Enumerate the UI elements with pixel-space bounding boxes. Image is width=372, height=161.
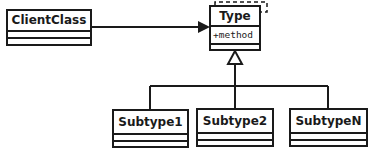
class-subtypen[interactable]: SubtypeN [289, 108, 368, 147]
generalization-triangle-icon [228, 51, 242, 64]
class-client[interactable]: ClientClass [6, 9, 92, 46]
extra-compartment [211, 43, 259, 48]
attributes-compartment [8, 30, 90, 37]
class-name: SubtypeN [291, 110, 366, 132]
class-name: ClientClass [8, 11, 90, 30]
class-name: Subtype2 [198, 110, 272, 132]
operations-compartment [8, 37, 90, 43]
class-subtype2[interactable]: Subtype2 [196, 108, 274, 147]
attributes-compartment [198, 132, 272, 139]
attributes-compartment [114, 133, 187, 140]
class-subtype1[interactable]: Subtype1 [112, 109, 189, 148]
class-name: Subtype1 [114, 111, 187, 133]
operations-compartment [114, 140, 187, 147]
class-type[interactable]: Type +method [209, 5, 261, 51]
class-name: Type [211, 7, 259, 25]
operations-compartment [198, 139, 272, 146]
attributes-compartment [291, 132, 366, 139]
operation-method: +method [211, 25, 259, 43]
operations-compartment [291, 139, 366, 146]
